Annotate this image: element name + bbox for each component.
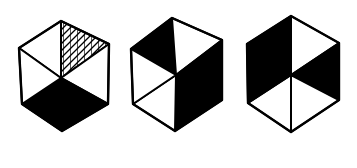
hexagon-1	[19, 21, 109, 131]
hexagon-2	[131, 18, 222, 131]
hexagon-figure	[0, 0, 357, 168]
hexagons-group	[19, 16, 339, 132]
figure-svg	[0, 0, 357, 168]
hexagon-3	[247, 16, 339, 132]
